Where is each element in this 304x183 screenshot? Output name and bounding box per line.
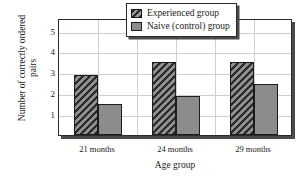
bar-2-series-1: [254, 84, 278, 135]
legend-entry-experienced: Experienced group: [131, 7, 230, 20]
gray-swatch-icon: [131, 22, 142, 31]
y-axis-tick-labels: 12345: [40, 19, 55, 136]
chart-legend: Experienced group Naive (control) group: [126, 3, 237, 37]
bar-0-series-1: [98, 104, 122, 135]
bar-chart-figure: Number of correctly ordered pairs 12345 …: [0, 0, 304, 183]
x-axis-tick-labels: 21 months24 months29 months: [58, 144, 292, 156]
x-tick-label-0: 21 months: [79, 144, 115, 154]
bar-series-container: [59, 20, 291, 135]
y-tick-label-1: 1: [40, 111, 55, 120]
bar-1-series-1: [176, 96, 200, 135]
x-axis-title: Age group: [58, 160, 292, 171]
legend-label-experienced: Experienced group: [147, 8, 219, 19]
x-tick-label-1: 24 months: [157, 144, 193, 154]
bar-0-series-0: [74, 75, 98, 135]
y-tick-label-2: 2: [40, 90, 55, 99]
bar-1-series-0: [152, 62, 176, 135]
x-tick-label-2: 29 months: [235, 144, 271, 154]
bar-2-series-0: [230, 62, 254, 135]
legend-entry-naive: Naive (control) group: [131, 20, 230, 33]
y-tick-label-3: 3: [40, 69, 55, 78]
legend-label-naive: Naive (control) group: [147, 21, 230, 32]
y-tick-label-5: 5: [40, 27, 55, 36]
y-tick-label-4: 4: [40, 48, 55, 57]
hatched-swatch-icon: [131, 9, 142, 18]
